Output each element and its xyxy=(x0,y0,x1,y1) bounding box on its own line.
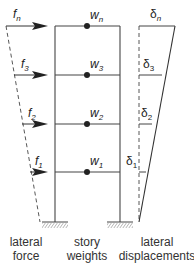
label-f3: f3 xyxy=(21,57,29,73)
weight-dot-w1 xyxy=(84,169,90,175)
weight-dot-wn xyxy=(84,23,90,29)
caption-disp-line1: lateral xyxy=(141,235,174,249)
label-wn: wn xyxy=(90,8,104,24)
label-dn: δn xyxy=(150,7,162,23)
label-d2: δ2 xyxy=(141,106,153,122)
label-fn: fn xyxy=(13,7,21,23)
caption-disp-line2: displacements xyxy=(119,249,194,263)
label-w1: w1 xyxy=(90,154,103,170)
label-w3: w3 xyxy=(90,57,104,73)
force-arrow-f3 xyxy=(14,71,48,79)
label-f1: f1 xyxy=(35,154,43,170)
label-w2: w2 xyxy=(90,106,104,122)
label-f2: f2 xyxy=(28,106,36,122)
caption-force-line1: lateral xyxy=(10,235,43,249)
frame-diagram: fn f3 f2 f1 wn w3 w2 w1 δn δ3 δ2 δ1 late… xyxy=(0,0,194,265)
weight-dot-w3 xyxy=(84,72,90,78)
label-d1: δ1 xyxy=(126,154,138,170)
caption-weights-line2: weights xyxy=(66,249,108,263)
label-d3: δ3 xyxy=(143,57,155,73)
caption-force-line2: force xyxy=(13,249,40,263)
ground-support-left xyxy=(42,222,68,228)
force-arrow-fn xyxy=(6,22,48,30)
weight-dot-w2 xyxy=(84,121,90,127)
caption-weights-line1: story xyxy=(74,235,100,249)
ground-support-right xyxy=(107,222,133,228)
